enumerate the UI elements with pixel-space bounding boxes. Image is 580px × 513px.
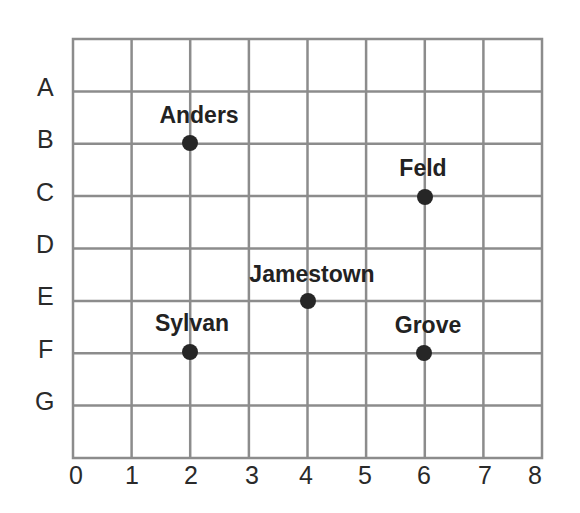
row-label-a: A (37, 75, 54, 100)
place-point-feld (417, 189, 433, 205)
row-label-c: C (36, 180, 54, 205)
col-label-0: 0 (69, 463, 83, 488)
row-label-g: G (35, 389, 54, 414)
col-label-2: 2 (184, 463, 198, 488)
place-label-grove: Grove (395, 314, 461, 337)
col-label-6: 6 (417, 463, 431, 488)
row-label-f: F (38, 337, 53, 362)
col-label-8: 8 (528, 463, 542, 488)
place-label-sylvan: Sylvan (155, 312, 229, 335)
row-label-b: B (37, 127, 54, 152)
col-label-7: 7 (478, 463, 492, 488)
place-point-anders (182, 135, 198, 151)
row-label-e: E (37, 284, 54, 309)
place-point-sylvan (182, 344, 198, 360)
row-label-d: D (36, 232, 54, 257)
col-label-4: 4 (299, 463, 313, 488)
place-label-anders: Anders (159, 104, 238, 127)
place-label-jamestown: Jamestown (249, 263, 374, 286)
coordinate-grid (0, 0, 580, 513)
place-point-jamestown (300, 293, 316, 309)
col-label-5: 5 (358, 463, 372, 488)
place-point-grove (416, 345, 432, 361)
col-label-1: 1 (125, 463, 139, 488)
place-label-feld: Feld (399, 157, 446, 180)
col-label-3: 3 (245, 463, 259, 488)
